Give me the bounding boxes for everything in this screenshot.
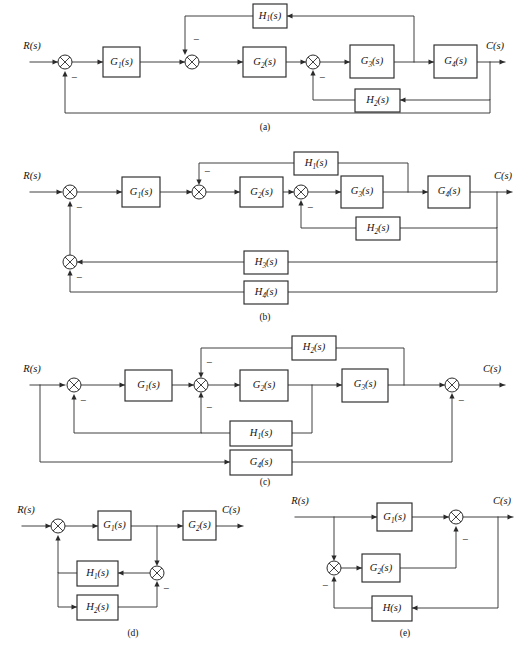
sum-junction-b-1 bbox=[63, 185, 77, 199]
block-b-g2-label: G2(s) bbox=[250, 186, 273, 199]
block-d-h1-label: H1(s) bbox=[85, 567, 109, 580]
wire-d-h1-to-sum1 bbox=[58, 540, 77, 573]
sum-junction-d-2 bbox=[150, 566, 164, 580]
arrow-a-into-sum1 bbox=[53, 59, 59, 64]
diagram-c: G1(s) G2(s) G3(s) G4(s) H1(s) H2(s) R(s)… bbox=[22, 336, 505, 488]
arrow-d-into-h1 bbox=[118, 570, 124, 575]
sign-e-sum2: − bbox=[462, 533, 468, 545]
wire-e-g2-to-sum2 bbox=[400, 531, 456, 568]
arrow-b-h3-into-sum4 bbox=[77, 259, 83, 264]
block-c-h2-label: H2(s) bbox=[302, 341, 326, 354]
arrow-c-into-sum2 bbox=[189, 382, 195, 387]
arrow-b-h4-into-sum4 bbox=[67, 270, 72, 276]
sign-c-sum2-top: − bbox=[206, 356, 212, 368]
sign-c-sum1: − bbox=[80, 394, 86, 406]
wire-e-h-to-sum1 bbox=[334, 581, 372, 608]
arrow-d-into-sum2 bbox=[154, 561, 159, 567]
arrow-e-g2-input bbox=[357, 565, 363, 570]
label-d-output: C(s) bbox=[222, 504, 241, 516]
sign-b-sum3: − bbox=[307, 201, 313, 213]
arrow-c-into-g3 bbox=[337, 382, 343, 387]
arrow-a-into-g3 bbox=[345, 59, 351, 64]
sum-junction-c-3 bbox=[445, 378, 459, 392]
arrow-c-into-sum3 bbox=[440, 382, 446, 387]
wire-c-g4-to-sum3 bbox=[292, 398, 452, 462]
arrow-b-into-g4 bbox=[423, 189, 429, 194]
arrow-b-output bbox=[507, 189, 513, 194]
sign-a-sum2: − bbox=[193, 33, 199, 45]
wire-c-h2-to-sum2 bbox=[201, 348, 292, 373]
wire-a-outer-feedback bbox=[65, 76, 490, 113]
sum-junction-e-2 bbox=[449, 510, 463, 524]
sum-junction-b-4 bbox=[63, 255, 77, 269]
wire-d-rail-to-h2 bbox=[58, 573, 77, 607]
sign-a-sum1: − bbox=[71, 71, 77, 83]
arrow-d-output bbox=[238, 523, 244, 528]
arrow-a-h1-into-sum2 bbox=[182, 50, 187, 56]
block-a-g3-label: G3(s) bbox=[361, 55, 384, 68]
diagram-d: G1(s) G2(s) H1(s) H2(s) R(s) C(s) − (d) bbox=[16, 504, 243, 639]
arrow-b-sum4-into-sum1 bbox=[67, 201, 72, 207]
arrow-a-into-g1 bbox=[98, 59, 104, 64]
block-c-h1-label: H1(s) bbox=[249, 427, 273, 440]
caption-b: (b) bbox=[259, 312, 270, 323]
block-a-g2-label: G2(s) bbox=[253, 56, 276, 69]
arrow-c-h1-into-sum1 bbox=[71, 394, 76, 400]
label-c-output: C(s) bbox=[483, 363, 502, 375]
wire-b-h4-to-sum4 bbox=[70, 275, 244, 292]
block-diagram-figure: G1(s) G2(s) G3(s) G4(s) H1(s) H2(s) R(s)… bbox=[0, 0, 530, 650]
sign-d-sum2: − bbox=[163, 582, 169, 594]
sum-junction-a-3 bbox=[306, 55, 320, 69]
arrow-d-into-g2 bbox=[178, 523, 184, 528]
block-b-h1-label: H1(s) bbox=[304, 157, 328, 170]
arrow-e-h-into-sum1 bbox=[331, 576, 336, 582]
diagram-e: G1(s) G2(s) H(s) R(s) C(s) − − (e) bbox=[290, 495, 513, 639]
arrow-e-output bbox=[508, 514, 514, 519]
arrow-d-into-g1 bbox=[93, 523, 99, 528]
block-c-g3-label: G3(s) bbox=[354, 378, 377, 391]
arrow-d-into-sum1 bbox=[46, 523, 52, 528]
arrow-b-h2-into-sum3 bbox=[298, 200, 303, 206]
arrow-c-into-sum1 bbox=[60, 382, 66, 387]
caption-d: (d) bbox=[127, 628, 138, 639]
sign-c-sum2-bottom: − bbox=[206, 401, 212, 413]
sum-junction-b-3 bbox=[294, 185, 308, 199]
arrow-a-into-g4 bbox=[429, 59, 435, 64]
block-b-h2-label: H2(s) bbox=[366, 222, 390, 235]
sum-junction-c-2 bbox=[194, 378, 208, 392]
diagram-a: G1(s) G2(s) G3(s) G4(s) H1(s) H2(s) R(s)… bbox=[22, 4, 505, 133]
block-b-h4-label: H4(s) bbox=[254, 286, 278, 299]
arrow-a-into-sum2 bbox=[180, 59, 186, 64]
arrow-b-into-sum2 bbox=[187, 189, 193, 194]
label-b-input: R(s) bbox=[22, 170, 41, 182]
arrow-b-into-g3 bbox=[336, 189, 342, 194]
block-e-g1-label: G1(s) bbox=[383, 511, 406, 524]
arrow-c-into-g1 bbox=[120, 382, 126, 387]
arrow-c-g4-into-sum3 bbox=[449, 393, 454, 399]
arrow-b-into-g2 bbox=[235, 189, 241, 194]
label-d-input: R(s) bbox=[16, 504, 35, 516]
wire-c-tap-g2-to-h1 bbox=[292, 385, 312, 433]
block-e-h-label: H(s) bbox=[382, 602, 402, 614]
block-a-g1-label: G1(s) bbox=[110, 56, 133, 69]
wire-b-tap-out-to-h4 bbox=[288, 262, 497, 292]
arrow-a-output bbox=[500, 59, 506, 64]
block-a-h1-label: H1(s) bbox=[258, 10, 282, 23]
sign-b-sum1: − bbox=[76, 201, 82, 213]
sign-b-sum2: − bbox=[204, 165, 210, 177]
arrow-a-into-h1 bbox=[287, 13, 293, 18]
caption-e: (e) bbox=[400, 628, 411, 639]
arrow-a-into-sum3 bbox=[301, 59, 307, 64]
sign-a-sum3: − bbox=[319, 71, 325, 83]
arrow-b-h1-into-sum2 bbox=[196, 180, 201, 186]
arrow-c-into-g2 bbox=[235, 382, 241, 387]
label-e-input: R(s) bbox=[290, 495, 309, 507]
block-c-g4-label: G4(s) bbox=[250, 456, 273, 469]
wire-d-h2-to-sum2 bbox=[118, 586, 157, 607]
block-b-g1-label: G1(s) bbox=[130, 186, 153, 199]
caption-a: (a) bbox=[260, 122, 271, 133]
arrow-b-into-sum1 bbox=[57, 189, 63, 194]
arrow-e-g2-into-sum2 bbox=[453, 526, 458, 532]
arrow-b-into-g1 bbox=[117, 189, 123, 194]
sum-junction-d-1 bbox=[51, 519, 65, 533]
